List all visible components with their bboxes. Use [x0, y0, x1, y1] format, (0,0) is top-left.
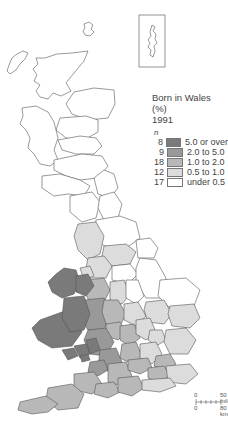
scale-zero-miles: 0: [194, 392, 197, 398]
legend-item: 17 under 0.5: [152, 177, 228, 187]
legend-n-header: n: [154, 128, 228, 137]
legend-swatch: [167, 158, 183, 167]
legend-count: 17: [152, 177, 164, 187]
region-humberside: [136, 238, 158, 258]
legend-swatch: [166, 138, 181, 147]
legend-label: 2.0 to 5.0: [187, 147, 225, 157]
scale-km-label: 80 km: [220, 405, 228, 417]
legend-label: 5.0 or over: [185, 137, 228, 147]
western-isles: [7, 51, 28, 74]
region-essex: [164, 328, 196, 354]
region-central-lothian: [58, 136, 102, 154]
region-strathclyde: [20, 106, 58, 166]
region-sussex: [142, 378, 176, 392]
region-grampian: [66, 88, 115, 120]
legend-swatch: [167, 178, 183, 187]
orkney-islands: [83, 22, 94, 36]
region-gwynedd: [48, 268, 80, 298]
scale-zero-km: 0: [194, 405, 197, 411]
legend-item: 12 0.5 to 1.0: [152, 167, 228, 177]
legend: Born in Wales (%) 1991 n 8 5.0 or over 9…: [152, 92, 228, 187]
legend-count: 8: [152, 137, 163, 147]
legend-item: 18 1.0 to 2.0: [152, 157, 228, 167]
legend-count: 18: [152, 157, 164, 167]
legend-count: 12: [152, 167, 164, 177]
region-cumbria: [70, 192, 100, 222]
legend-item: 9 2.0 to 5.0: [152, 147, 228, 157]
scale-miles-label: 50 miles: [220, 392, 228, 404]
legend-title: Born in Wales (%): [152, 92, 228, 114]
legend-label: under 0.5: [187, 177, 225, 187]
region-durham-tyne: [98, 192, 122, 220]
choropleth-map: [0, 0, 228, 440]
legend-item: 8 5.0 or over: [152, 137, 228, 147]
legend-swatch: [167, 168, 183, 177]
region-hampshire: [118, 376, 144, 396]
legend-label: 0.5 to 1.0: [187, 167, 225, 177]
legend-year: 1991: [152, 114, 228, 125]
region-lancashire: [74, 222, 104, 260]
region-suffolk: [168, 304, 200, 328]
legend-swatch: [167, 148, 183, 157]
scale-labels: 0 50 miles 0 80 km: [180, 385, 228, 425]
legend-label: 1.0 to 2.0: [187, 157, 225, 167]
legend-count: 9: [152, 147, 164, 157]
